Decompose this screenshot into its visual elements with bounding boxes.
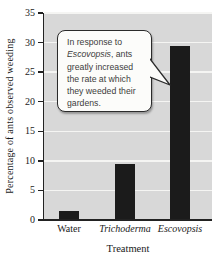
y-tick-30	[38, 42, 43, 44]
y-tick-label-10: 10	[9, 155, 35, 167]
y-tick-0	[38, 219, 43, 221]
annotation-line-1: In response to	[67, 36, 145, 48]
figure-canvas: Percentage of ants observed weeding Trea…	[0, 0, 218, 263]
x-axis-title: Treatment	[107, 243, 150, 254]
x-axis-line	[43, 219, 212, 221]
annotation-line-3: greatly increased	[67, 61, 145, 73]
annotation-line-6: gardens.	[67, 97, 145, 109]
y-axis-line	[43, 13, 45, 221]
callout-tail-icon	[150, 58, 174, 90]
y-tick-label-30: 30	[9, 37, 35, 49]
y-tick-label-5: 5	[9, 184, 35, 196]
y-tick-5	[38, 190, 43, 192]
y-tick-10	[38, 160, 43, 162]
x-category-label-escovopsis: Escovopsis	[158, 223, 202, 234]
x-category-label-trichoderma: Trichoderma	[99, 223, 151, 234]
y-tick-label-25: 25	[9, 66, 35, 78]
y-tick-20	[38, 101, 43, 103]
y-tick-label-15: 15	[9, 125, 35, 137]
y-tick-25	[38, 71, 43, 73]
y-axis-title: Percentage of ants observed weeding	[4, 38, 15, 193]
annotation-line-2: Escovopsis, ants	[67, 48, 145, 60]
x-category-label-water: Water	[57, 223, 81, 234]
y-tick-15	[38, 131, 43, 133]
annotation-line-4: the rate at which	[67, 73, 145, 85]
y-tick-label-20: 20	[9, 96, 35, 108]
y-tick-label-0: 0	[9, 214, 35, 226]
y-tick-35	[38, 12, 43, 14]
bar-trichoderma	[115, 164, 135, 220]
annotation-line-5: they weeded their	[67, 85, 145, 97]
annotation-callout: In response toEscovopsis, antsgreatly in…	[57, 30, 152, 112]
gridline-35	[44, 12, 212, 14]
y-tick-label-35: 35	[9, 7, 35, 19]
